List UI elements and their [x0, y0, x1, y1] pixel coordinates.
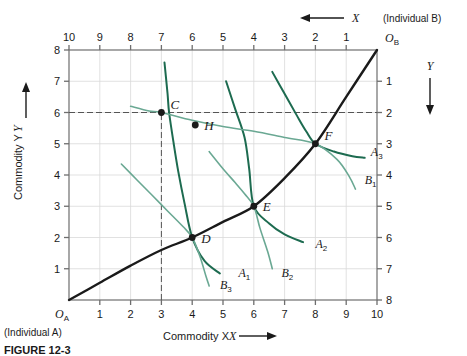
tick-label-right: 5 [386, 200, 392, 212]
point-label-f: F [323, 128, 333, 143]
curve-label-subscript: 2 [289, 273, 294, 282]
curve-label-subscript: 3 [227, 285, 232, 294]
tick-label-top: 4 [251, 31, 257, 43]
tick-label-top: 1 [343, 31, 349, 43]
point-label-e: E [262, 199, 271, 214]
tick-label-right: 3 [386, 138, 392, 150]
tick-label-top: 2 [312, 31, 318, 43]
origin-label-b: OB [385, 31, 399, 47]
y-axis-title-symbol: Y [11, 124, 25, 132]
y-axis-title-text: Commodity Y [12, 134, 24, 200]
origin-subscript: B [394, 38, 399, 47]
tick-label-right: 2 [386, 107, 392, 119]
point-marker-c [158, 109, 165, 116]
point-label-h: H [203, 118, 214, 133]
tick-label-bottom: 1 [97, 308, 103, 320]
tick-label-left: 3 [54, 200, 60, 212]
tick-label-right: 1 [386, 75, 392, 87]
tick-label-bottom: 4 [189, 308, 195, 320]
tick-label-right: 4 [386, 169, 392, 181]
point-marker-h [192, 122, 199, 129]
x-axis-arrow-head-icon [267, 332, 277, 340]
tick-label-bottom: 9 [343, 308, 349, 320]
x-axis-title-symbol: X [228, 329, 237, 343]
tick-label-top: 3 [282, 31, 288, 43]
point-label-d: D [200, 231, 211, 246]
y-axis-title: Commodity YY [11, 82, 30, 200]
tick-label-top: 9 [97, 31, 103, 43]
figure-container: 12345678910123456781098765432112345678CH… [0, 0, 467, 356]
tick-label-right: 6 [386, 232, 392, 244]
point-label-c: C [170, 97, 179, 112]
y-axis-arrow-head-icon [22, 82, 30, 92]
tick-label-right: 8 [386, 294, 392, 306]
tick-label-bottom: 3 [158, 308, 164, 320]
tick-label-top: 8 [128, 31, 134, 43]
individual-b-label: (Individual B) [383, 13, 441, 24]
tick-label-top: 6 [189, 31, 195, 43]
tick-label-bottom: 5 [220, 308, 226, 320]
curve-label-subscript: 3 [378, 152, 383, 161]
curve-label-subscript: 1 [246, 273, 251, 282]
tick-label-left: 5 [54, 138, 60, 150]
tick-label-top: 5 [220, 31, 226, 43]
tick-label-left: 4 [54, 169, 60, 181]
tick-label-top: 10 [63, 31, 75, 43]
tick-label-bottom: 6 [251, 308, 257, 320]
point-marker-d [189, 234, 196, 241]
tick-label-left: 1 [54, 263, 60, 275]
tick-label-bottom: 2 [128, 308, 134, 320]
tick-label-top: 7 [158, 31, 164, 43]
tick-label-left: 6 [54, 107, 60, 119]
individual-a-label: (Individual A) [4, 327, 62, 338]
curve-label-subscript: 2 [323, 244, 328, 253]
tick-label-right: 7 [386, 263, 392, 275]
origin-letter: O [55, 307, 64, 321]
origin-label-a: OA [55, 307, 70, 323]
point-marker-f [312, 140, 319, 147]
tick-label-bottom: 8 [312, 308, 318, 320]
top-arrow-label: X [351, 11, 360, 25]
curve-label-a3: A3 [370, 145, 383, 161]
edgeworth-box-svg: 12345678910123456781098765432112345678CH… [0, 0, 467, 356]
right-arrow-head-icon [426, 105, 434, 115]
point-marker-e [250, 203, 257, 210]
origin-subscript: A [64, 314, 70, 323]
tick-label-left: 7 [54, 75, 60, 87]
tick-label-left: 8 [54, 44, 60, 56]
tick-label-left: 2 [54, 232, 60, 244]
tick-label-bottom: 10 [371, 308, 383, 320]
top-x-arrow: X [300, 11, 360, 25]
x-axis-title: Commodity XX [163, 329, 277, 343]
top-arrow-head-icon [300, 14, 310, 22]
figure-caption: FIGURE 12-3 [4, 344, 71, 356]
x-axis-title-text: Commodity X [163, 330, 230, 342]
origin-letter: O [385, 31, 394, 45]
tick-label-bottom: 7 [282, 308, 288, 320]
right-arrow-label: Y [427, 59, 435, 73]
curve-label-subscript: 1 [372, 180, 377, 189]
right-y-arrow: Y [426, 59, 435, 115]
